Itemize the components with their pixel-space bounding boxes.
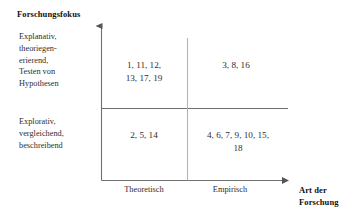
quadrant-cell-empirical-explanative: 3, 8, 16 — [190, 59, 282, 72]
y-axis-title: Forschungsfokus — [17, 9, 80, 20]
quadrant-cell-empirical-explorative: 4, 6, 7, 9, 10, 15, 18 — [188, 129, 288, 156]
quadrant-cell-theoretical-explorative: 2, 5, 14 — [104, 129, 184, 142]
x-tick-label-theoretisch: Theoretisch — [104, 185, 184, 196]
x-tick-label-empirisch: Empirisch — [190, 185, 270, 196]
row-label-explanative: Explanativ, theoriegen- erierend, Testen… — [19, 31, 59, 90]
quadrant-cell-theoretical-explanative: 1, 11, 12, 13, 17, 19 — [104, 59, 184, 86]
row-label-explorative: Explorativ, vergleichend, beschreibend — [19, 116, 64, 151]
quadrant-diagram: Forschungsfokus Explanativ, theoriegen- … — [0, 0, 356, 217]
x-axis-title: Art der Forschung — [299, 184, 339, 209]
